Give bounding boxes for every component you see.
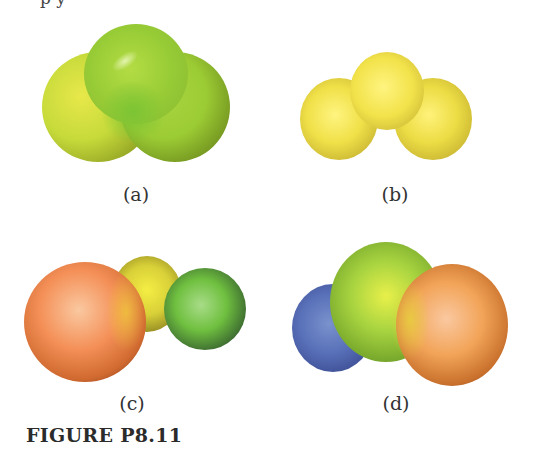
panel-label-b: (b) [382,183,409,205]
cutoff-text-line: p y [40,0,66,8]
figure-caption: FIGURE P8.11 [26,424,182,446]
panel-label-a: (a) [123,183,149,205]
molecule-d-image [290,240,510,390]
molecule-a-image [40,22,232,164]
panel-label-d: (d) [383,392,410,414]
molecule-b-image [298,50,474,166]
molecule-c-image [24,250,248,382]
panel-label-c: (c) [119,392,144,414]
